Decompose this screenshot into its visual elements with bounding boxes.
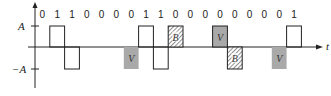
x-label-t: t bbox=[326, 40, 330, 52]
bit-label: 1 bbox=[143, 9, 149, 20]
bit-label: 1 bbox=[158, 9, 164, 20]
bit-label: 0 bbox=[128, 9, 134, 20]
bit-label: 0 bbox=[217, 9, 223, 20]
bit-label: 0 bbox=[202, 9, 208, 20]
bit-label: 0 bbox=[173, 9, 179, 20]
mark-pulse bbox=[65, 47, 80, 69]
bit-label: 0 bbox=[276, 9, 282, 20]
y-axis-arrow-icon bbox=[33, 2, 38, 8]
bit-label: 0 bbox=[188, 9, 194, 20]
mark-pulse bbox=[153, 47, 168, 69]
bit-label: 0 bbox=[262, 9, 268, 20]
bit-label: 0 bbox=[40, 9, 46, 20]
bit-label: 0 bbox=[99, 9, 105, 20]
mark-pulse bbox=[50, 26, 65, 47]
bipolar-label: B bbox=[173, 32, 179, 43]
bit-label: 0 bbox=[247, 9, 253, 20]
bit-label: 1 bbox=[69, 9, 75, 20]
bit-label: 1 bbox=[54, 9, 60, 20]
hdb3-line-code-diagram: A −A t 011000011000000001 VBVBV bbox=[0, 0, 331, 96]
bipolar-label: B bbox=[232, 53, 238, 64]
bit-label: 1 bbox=[291, 9, 297, 20]
bit-label: 0 bbox=[84, 9, 90, 20]
y-label-neg: −A bbox=[12, 63, 26, 75]
x-axis-arrow-icon bbox=[316, 45, 323, 50]
bit-labels: 011000011000000001 bbox=[40, 9, 298, 20]
y-label-pos: A bbox=[17, 20, 25, 32]
bit-label: 0 bbox=[232, 9, 238, 20]
bit-label: 0 bbox=[114, 9, 120, 20]
mark-pulse bbox=[287, 26, 302, 47]
mark-pulse bbox=[139, 26, 154, 47]
